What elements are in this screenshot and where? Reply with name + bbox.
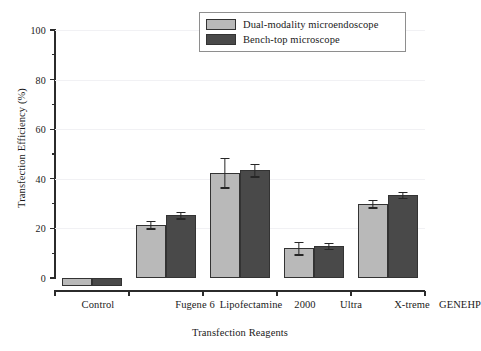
error-bar-cap-lower	[369, 207, 378, 208]
y-axis-tick-major	[50, 79, 55, 80]
chart-legend: Dual-modality microendoscope Bench-top m…	[199, 12, 406, 52]
y-axis-tick-label: 20	[36, 223, 46, 234]
x-axis-tick-label: Fugene 6	[175, 299, 215, 310]
y-axis-tick-major	[50, 129, 55, 130]
legend-label-series1: Bench-top microscope	[243, 34, 340, 45]
bar	[358, 204, 388, 278]
x-axis-tick-labels: ControlFugene 6Lipofectamine2000UltraX-t…	[55, 299, 425, 317]
error-bar-line	[298, 242, 299, 254]
error-bar-cap-lower	[399, 198, 408, 199]
y-axis-tick-minor	[52, 54, 55, 55]
error-bar-cap-lower	[295, 254, 304, 255]
y-axis-ticks: 020406080100	[0, 30, 55, 278]
error-bar-cap-lower	[177, 218, 186, 219]
y-axis-tick-major	[50, 277, 55, 278]
legend-swatch-icon-series0	[206, 19, 236, 30]
y-axis-tick-label: 0	[41, 273, 46, 284]
error-bar-cap-upper	[251, 164, 260, 165]
x-axis-tick	[350, 291, 351, 296]
error-bar-cap-upper	[369, 200, 378, 201]
gridline	[55, 80, 425, 81]
error-bar-cap-lower	[147, 228, 156, 229]
legend-swatch-icon-series1	[206, 34, 236, 45]
x-axis-tick-label: Ultra	[340, 299, 362, 310]
y-axis-tick-minor	[52, 203, 55, 204]
error-bar-cap-upper	[147, 221, 156, 222]
bar	[92, 278, 122, 286]
x-axis-tick-label: Lipofectamine	[220, 299, 283, 310]
bar	[388, 195, 418, 278]
y-axis-tick-label: 60	[36, 124, 46, 135]
x-axis-title: Transfection Reagents	[55, 327, 425, 338]
y-axis-tick-minor	[52, 104, 55, 105]
error-bar-cap-upper	[177, 212, 186, 213]
y-axis-tick-label: 80	[36, 74, 46, 85]
x-axis-ticks	[55, 291, 425, 297]
y-axis-tick-major	[50, 29, 55, 30]
x-axis-tick	[276, 291, 277, 296]
x-axis-tick-label: GENEHP	[439, 299, 481, 310]
error-bar-line	[254, 164, 255, 176]
error-bar-cap-lower	[251, 176, 260, 177]
error-bar-cap-lower	[221, 187, 230, 188]
legend-entry-dual-modality-microendoscope: Dual-modality microendoscope	[206, 17, 399, 32]
x-axis-tick	[202, 291, 203, 296]
x-axis-tick	[128, 291, 129, 296]
error-bar-cap-lower	[325, 249, 334, 250]
gridline	[55, 129, 425, 130]
bar	[136, 225, 166, 278]
error-bar-cap-upper	[325, 243, 334, 244]
x-axis-tick	[54, 291, 55, 296]
y-axis-tick-label: 40	[36, 173, 46, 184]
y-axis-tick-major	[50, 228, 55, 229]
x-axis-tick-label: X-treme	[394, 299, 430, 310]
bar	[240, 170, 270, 278]
legend-label-series0: Dual-modality microendoscope	[243, 19, 378, 30]
error-bar-cap-upper	[399, 192, 408, 193]
x-axis-tick	[424, 291, 425, 296]
bar	[166, 215, 196, 278]
x-axis-tick-label: 2000	[294, 299, 315, 310]
bar	[314, 246, 344, 278]
legend-entry-bench-top-microscope: Bench-top microscope	[206, 32, 399, 47]
error-bar-line	[224, 158, 225, 188]
y-axis-tick-label: 100	[30, 25, 46, 36]
y-axis-tick-minor	[52, 253, 55, 254]
error-bar-cap-upper	[221, 158, 230, 159]
y-axis-tick-minor	[52, 153, 55, 154]
plot-area	[55, 30, 425, 278]
y-axis-tick-major	[50, 178, 55, 179]
x-axis-tick-label: Control	[82, 299, 115, 310]
bar	[62, 278, 92, 286]
error-bar-cap-upper	[295, 242, 304, 243]
